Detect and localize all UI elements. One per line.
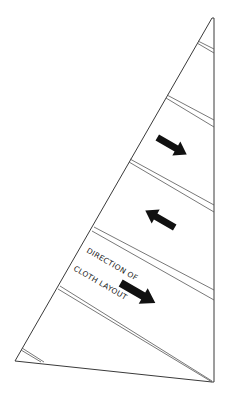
arrows — [116, 131, 191, 311]
sail-outline-shape — [15, 18, 214, 382]
seams — [21, 41, 214, 382]
sail-outline — [15, 18, 214, 382]
seam-2 — [166, 95, 214, 127]
arrow-down-right-upper-icon — [153, 131, 190, 162]
cloth-layout-label: DIRECTION OF CLOTH LAYOUT — [72, 246, 139, 302]
seam-6 — [21, 348, 44, 362]
sail-diagram: DIRECTION OF CLOTH LAYOUT — [0, 0, 230, 394]
sail-drawing: DIRECTION OF CLOTH LAYOUT — [0, 0, 230, 394]
seam-1 — [197, 41, 214, 53]
seam-3 — [129, 159, 214, 212]
arrow-up-left-middle-icon — [141, 204, 178, 235]
